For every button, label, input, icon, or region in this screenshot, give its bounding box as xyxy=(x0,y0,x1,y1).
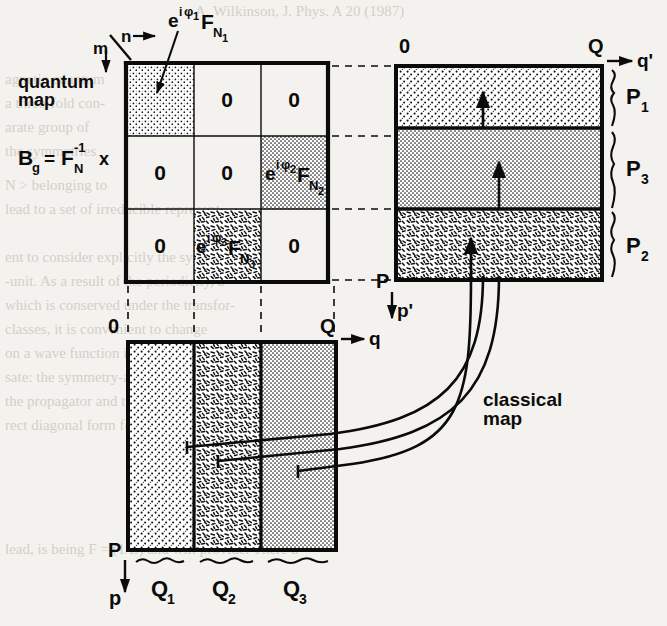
bg-line-3: arate group of xyxy=(5,119,89,135)
col-label-Q2: Q xyxy=(212,576,229,601)
matrix-entry-1-sup-phi: φ xyxy=(184,4,193,19)
caption-map: map xyxy=(18,90,55,110)
matrix-entry-1-sub-idx: 1 xyxy=(222,32,228,44)
col-idx-Q2: 2 xyxy=(228,591,236,607)
matrix-entry-2-sup-i: i xyxy=(276,158,279,172)
right-P-label: P xyxy=(376,270,389,292)
right-braces xyxy=(611,70,615,277)
formula-F: F xyxy=(61,146,74,169)
band-label-P2: P xyxy=(626,233,641,258)
matrix-zero-3-3: 0 xyxy=(288,234,300,257)
matrix-entry-3-sub-N: N xyxy=(240,251,249,266)
formula-F-sup: -1 xyxy=(74,140,86,155)
matrix-entry-3-sup-idx: 3 xyxy=(221,236,227,248)
band-idx-P2: 2 xyxy=(641,248,649,264)
matrix-entry-2-sub-idx: 2 xyxy=(318,185,324,197)
matrix-entry-1-sub-N: N xyxy=(213,25,222,40)
band-P1-fill xyxy=(396,66,602,128)
col-idx-Q3: 3 xyxy=(299,591,307,607)
matrix-entry-2-sup-phi: φ xyxy=(281,157,290,172)
quantum-classical-map-figure: A. Wilkinson, J. Phys. A 20 (1987) agnet… xyxy=(0,0,667,626)
formula-F-sub: N xyxy=(74,161,83,176)
caption-quantum: quantum xyxy=(18,72,94,92)
classical-map-caption: classical map xyxy=(483,389,562,429)
bottom-Q-label: Q xyxy=(320,315,336,337)
matrix-entry-3-sup-i: i xyxy=(207,231,210,245)
quantum-matrix: 0 0 0 0 0 0 e i φ 2 F N 2 e i φ 3 F N 3 xyxy=(126,63,328,282)
brace-Q1 xyxy=(136,558,184,563)
band-idx-P1: 1 xyxy=(641,99,649,115)
m-axis-label: m xyxy=(93,39,108,58)
matrix-zero-1-2: 0 xyxy=(221,88,233,111)
classical-map-line2: map xyxy=(483,408,522,429)
col-idx-Q1: 1 xyxy=(167,591,175,607)
matrix-entry-3-sub-idx: 3 xyxy=(249,258,255,270)
formula-times: x xyxy=(99,149,109,169)
brace-Q2 xyxy=(200,558,253,563)
p-axis-label: p xyxy=(109,587,121,609)
classical-map-line1: classical xyxy=(483,389,562,410)
formula-B-sub: g xyxy=(32,160,40,175)
n-axis-label: n xyxy=(121,27,131,46)
bottom-braces xyxy=(136,558,328,563)
pprime-axis-label: p' xyxy=(397,300,413,321)
band-label-P3: P xyxy=(626,156,641,181)
bottom-zero-label: 0 xyxy=(108,315,119,337)
matrix-zero-1-3: 0 xyxy=(288,88,300,111)
right-Q-label: Q xyxy=(588,35,604,57)
matrix-entry-2-sup-idx: 2 xyxy=(290,163,296,175)
bg-line-5: N > belonging to xyxy=(5,177,107,193)
brace-P2 xyxy=(611,212,615,277)
matrix-entry-1-e: e xyxy=(168,10,179,31)
brace-P3 xyxy=(611,132,615,208)
matrix-entry-1-sup-idx: 1 xyxy=(193,10,199,22)
q-axis-label: q xyxy=(369,328,381,349)
matrix-entry-3-e: e xyxy=(196,236,207,257)
bottom-column-labels: Q 1 Q 2 Q 3 xyxy=(151,576,307,607)
right-band-labels: P 1 P 3 P 2 xyxy=(626,84,649,264)
bottom-P-label: P xyxy=(108,539,121,561)
matrix-entry-2-sub-N: N xyxy=(309,178,318,193)
brace-P1 xyxy=(611,70,615,126)
col-Q1-fill xyxy=(128,342,194,550)
qprime-axis-label: q' xyxy=(637,50,653,71)
right-zero-label: 0 xyxy=(399,35,410,57)
figure-canvas: A. Wilkinson, J. Phys. A 20 (1987) agnet… xyxy=(0,0,667,626)
matrix-entry-3-sup-phi: φ xyxy=(212,230,221,245)
band-P2-fill xyxy=(396,209,602,280)
formula-B: B xyxy=(18,146,33,169)
col-label-Q1: Q xyxy=(151,576,168,601)
bottom-panel: 0 Q q P p Q 1 Q 2 Q 3 xyxy=(108,315,381,609)
bg-line-10: classes, it is convenient to change xyxy=(5,321,208,337)
matrix-zero-2-2: 0 xyxy=(221,161,233,184)
matrix-entry-2-e: e xyxy=(265,163,276,184)
brace-Q3 xyxy=(268,558,328,563)
formula-equals: = xyxy=(44,148,55,169)
col-Q3-fill xyxy=(261,342,336,550)
band-idx-P3: 3 xyxy=(641,171,649,187)
bg-line-9: which is conserved under the transfor- xyxy=(5,297,235,313)
band-label-P1: P xyxy=(626,84,641,109)
matrix-zero-3-1: 0 xyxy=(154,234,166,257)
bg-line-top: A. Wilkinson, J. Phys. A 20 (1987) xyxy=(195,3,404,20)
right-panel: 0 Q q' P p' P 1 P 3 P 2 xyxy=(376,35,653,321)
matrix-zero-2-1: 0 xyxy=(154,161,166,184)
col-label-Q3: Q xyxy=(283,576,300,601)
matrix-cell-1-1-shaded xyxy=(126,63,194,136)
matrix-entry-1-sup-i: i xyxy=(179,5,182,19)
